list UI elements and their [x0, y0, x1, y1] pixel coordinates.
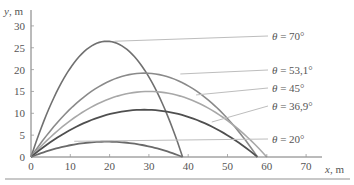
- y-axis-label: y, m: [3, 5, 23, 17]
- y-tick-label: 10: [14, 107, 26, 119]
- x-tick-label: 60: [261, 160, 273, 172]
- leader-line: [212, 106, 268, 122]
- x-tick-label: 40: [183, 160, 195, 172]
- x-tick-label: 20: [104, 160, 116, 172]
- label-theta-20: θ = 20°: [272, 133, 305, 145]
- leader-line: [196, 88, 268, 95]
- trajectory-53-1: [31, 73, 257, 157]
- leader-line: [180, 70, 268, 74]
- y-tick-label: 20: [14, 64, 26, 76]
- y-tick-label: 15: [14, 85, 26, 97]
- label-theta-36-9: θ = 36,9°: [272, 100, 313, 112]
- leader-line: [115, 36, 268, 41]
- y-tick-label: 0: [20, 151, 26, 163]
- trajectory-20: [31, 142, 183, 157]
- trajectory-chart: 010203040506070 051015202530 y, m x, m θ…: [0, 0, 354, 185]
- x-tick-label: 70: [301, 160, 313, 172]
- y-tick-label: 30: [14, 20, 26, 32]
- y-tick-label: 5: [20, 129, 26, 141]
- label-theta-53-1: θ = 53,1°: [272, 64, 313, 76]
- leader-line: [74, 139, 268, 141]
- x-tick-label: 0: [28, 160, 34, 172]
- x-axis-label: x, m: [324, 163, 344, 175]
- y-tick-label: 25: [14, 42, 26, 54]
- x-tick-label: 30: [143, 160, 155, 172]
- curve-labels: θ = 70° θ = 53,1° θ = 45° θ = 36,9° θ = …: [272, 30, 313, 145]
- x-tick-label: 50: [222, 160, 234, 172]
- label-theta-45: θ = 45°: [272, 82, 305, 94]
- x-tick-label: 10: [65, 160, 77, 172]
- label-theta-70: θ = 70°: [272, 30, 305, 42]
